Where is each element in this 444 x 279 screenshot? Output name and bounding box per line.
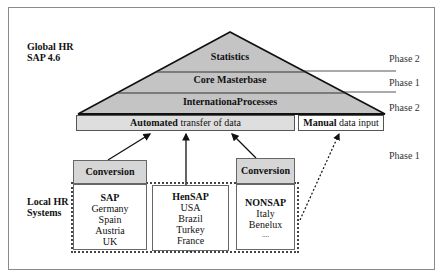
automated-bold-text: Automated xyxy=(130,117,178,128)
layer-international-processes: InternationaProcesses xyxy=(140,96,320,107)
system-country: Germany xyxy=(74,203,146,214)
system-country: France xyxy=(153,235,228,246)
manual-input-box: Manual data input xyxy=(298,115,384,131)
phase-label-core: Phase 1 xyxy=(389,77,420,88)
system-country: Italy xyxy=(237,208,294,219)
global-hr-line2: SAP 4.6 xyxy=(27,52,73,63)
global-hr-line1: Global HR xyxy=(27,41,73,52)
automated-rest-text: transfer of data xyxy=(178,117,241,128)
global-hr-label: Global HR SAP 4.6 xyxy=(27,41,73,63)
phase-label-local: Phase 1 xyxy=(389,150,420,161)
system-box-hensap: HenSAP USA Brazil Turkey France .... xyxy=(152,185,229,251)
local-hr-label: Local HR Systems xyxy=(27,196,68,218)
system-country: Turkey xyxy=(153,224,228,235)
conversion-box-nonsap: Conversion xyxy=(236,158,295,184)
system-country: USA xyxy=(153,202,228,213)
phase-label-international: Phase 2 xyxy=(389,102,420,113)
system-box-sap: SAP Germany Spain Austria UK xyxy=(73,184,147,250)
local-hr-line1: Local HR xyxy=(27,196,68,207)
conversion-box-sap: Conversion xyxy=(73,160,147,184)
arrow-sap-to-automated xyxy=(108,134,150,160)
system-country: Brazil xyxy=(153,213,228,224)
system-box-nonsap: NONSAP Italy Benelux .... xyxy=(236,184,295,250)
system-title: HenSAP xyxy=(153,191,228,202)
arrow-nonsap-to-manual xyxy=(300,134,339,220)
system-country: Austria xyxy=(74,225,146,236)
arrow-nonsap-to-automated xyxy=(232,134,256,158)
local-hr-line2: Systems xyxy=(27,207,68,218)
system-country: Spain xyxy=(74,214,146,225)
automated-transfer-bar: Automated transfer of data xyxy=(76,115,295,131)
phase-label-statistics: Phase 2 xyxy=(389,53,420,64)
layer-statistics: Statistics xyxy=(180,51,280,62)
system-country: Benelux xyxy=(237,219,294,230)
system-country: .... xyxy=(237,230,294,241)
layer-core-masterbase: Core Masterbase xyxy=(160,74,300,85)
system-country: UK xyxy=(74,236,146,247)
system-title: SAP xyxy=(74,192,146,203)
manual-bold-text: Manual xyxy=(303,117,336,128)
system-title: NONSAP xyxy=(237,197,294,208)
system-country: .... xyxy=(153,246,228,255)
manual-rest-text: data input xyxy=(337,117,379,128)
